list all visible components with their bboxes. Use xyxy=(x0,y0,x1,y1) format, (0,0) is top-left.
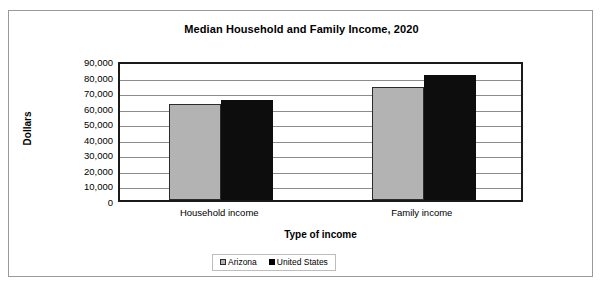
legend-item-arizona: Arizona xyxy=(220,257,257,267)
y-axis-tick-label: 60,000 xyxy=(53,103,113,114)
chart-title: Median Household and Family Income, 2020 xyxy=(9,23,594,35)
y-axis-tick-labels: 90,00080,00070,00060,00050,00040,00030,0… xyxy=(49,62,113,202)
bar-united-states-household-income xyxy=(221,100,273,200)
y-axis-tick-label: 30,000 xyxy=(53,150,113,161)
legend-label: United States xyxy=(277,257,328,267)
y-axis-tick-label: 40,000 xyxy=(53,134,113,145)
legend-swatch-icon xyxy=(220,259,226,265)
x-axis-category-label: Family income xyxy=(321,207,524,218)
x-axis-title: Type of income xyxy=(118,229,523,240)
y-axis-tick-label: 50,000 xyxy=(53,119,113,130)
legend-label: Arizona xyxy=(228,257,257,267)
y-axis-title: Dollars xyxy=(22,89,33,169)
y-axis-tick-label: 0 xyxy=(53,197,113,208)
y-axis-tick-label: 90,000 xyxy=(53,57,113,68)
chart-container: Median Household and Family Income, 2020… xyxy=(8,10,593,277)
bar-arizona-household-income xyxy=(169,104,221,200)
y-axis-tick-label: 20,000 xyxy=(53,165,113,176)
legend-swatch-icon xyxy=(269,259,275,265)
bar-arizona-family-income xyxy=(372,87,424,200)
bar-united-states-family-income xyxy=(424,75,476,200)
x-axis-category-label: Household income xyxy=(118,207,321,218)
plot-area xyxy=(118,62,523,202)
chart-legend: ArizonaUnited States xyxy=(212,254,336,271)
y-axis-tick-label: 10,000 xyxy=(53,181,113,192)
legend-item-united-states: United States xyxy=(269,257,328,267)
y-axis-tick-label: 80,000 xyxy=(53,72,113,83)
y-axis-tick-label: 70,000 xyxy=(53,88,113,99)
